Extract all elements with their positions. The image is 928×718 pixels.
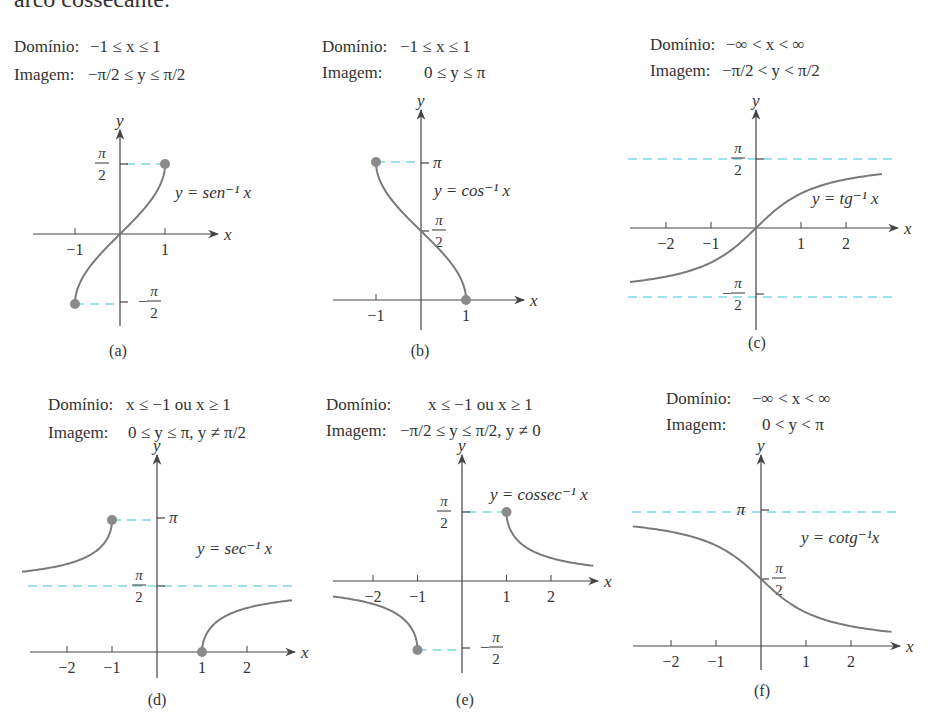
y-tick-label: −π2: [480, 629, 503, 667]
panel-b-plot: xy−11ππ2: [333, 91, 538, 330]
svg-text:π: π: [135, 567, 143, 583]
panel-c-domain-expr: −∞ < x < ∞: [726, 35, 805, 54]
y-tick-label: π2: [95, 145, 109, 183]
panel-a-header: Domínio: −1 ≤ x ≤ 1 Imagem: −π/2 ≤ y ≤ π…: [14, 37, 185, 84]
panel-f-range-expr: 0 < y < π: [762, 415, 824, 434]
panel-b-domain-expr: −1 ≤ x ≤ 1: [400, 37, 471, 56]
panel-f-domain-label: Domínio:: [666, 389, 731, 408]
x-axis-label: x: [905, 637, 914, 656]
panel-e-function-label: y = cossec⁻¹ x: [488, 485, 588, 504]
panel-c-range-expr: −π/2 < y < π/2: [722, 61, 820, 80]
y-tick-label: π2: [437, 493, 451, 531]
function-curve: [333, 596, 418, 650]
x-tick-label: −1: [702, 235, 719, 252]
x-tick-label: −2: [657, 235, 674, 252]
x-tick-label: 2: [847, 653, 855, 670]
x-tick-label: −2: [662, 653, 679, 670]
svg-text:π: π: [433, 153, 442, 172]
x-tick-label: −1: [409, 588, 426, 605]
x-axis-label: x: [300, 643, 309, 662]
x-axis-label: x: [529, 291, 538, 310]
panel-c-range-label: Imagem:: [650, 61, 710, 80]
panel-e-domain-label: Domínio:: [326, 395, 391, 414]
panel-d-header: Domínio: x ≤ −1 ou x ≥ 1 Imagem: 0 ≤ y ≤…: [48, 395, 246, 442]
panel-f-header: Domínio: −∞ < x < ∞ Imagem: 0 < y < π: [666, 389, 831, 434]
x-tick-label: −1: [103, 659, 120, 676]
panel-a-domain-expr: −1 ≤ x ≤ 1: [90, 37, 161, 56]
y-tick-label: π: [737, 500, 746, 519]
panel-e-range-expr: −π/2 ≤ y ≤ π/2, y ≠ 0: [400, 421, 541, 440]
endpoint-dot: [197, 647, 207, 657]
y-tick-label: −π2: [722, 275, 745, 313]
x-tick-label: 1: [161, 241, 169, 258]
endpoint-dot: [413, 645, 423, 655]
svg-text:−: −: [138, 292, 148, 311]
panel-f-range-label: Imagem:: [666, 415, 726, 434]
endpoint-dot: [502, 507, 512, 517]
panel-b-domain-label: Domínio:: [322, 37, 387, 56]
plot-layer: xy−11π2−π2xy−11ππ2xy−2−112π2−π2xy−2−112π…: [22, 91, 914, 678]
svg-text:π: π: [98, 145, 106, 161]
inverse-trig-figure: Domínio: −1 ≤ x ≤ 1 Imagem: −π/2 ≤ y ≤ π…: [0, 0, 928, 718]
panel-a-range-label: Imagem:: [14, 65, 74, 84]
svg-text:π: π: [440, 493, 448, 509]
panel-b-caption: (b): [411, 342, 430, 360]
svg-text:π: π: [734, 140, 742, 156]
x-axis-label: x: [223, 225, 232, 244]
svg-text:2: 2: [150, 305, 158, 321]
panel-d-domain-label: Domínio:: [48, 395, 113, 414]
x-axis-label: x: [903, 219, 912, 238]
svg-text:2: 2: [135, 589, 143, 605]
x-tick-label: −1: [707, 653, 724, 670]
panel-d-caption: (d): [148, 691, 167, 709]
svg-text:2: 2: [734, 297, 742, 313]
panel-c-header: Domínio: −∞ < x < ∞ Imagem: −π/2 < y < π…: [650, 35, 820, 80]
x-tick-label: 2: [547, 588, 555, 605]
endpoint-dot: [160, 159, 170, 169]
svg-text:π: π: [435, 212, 443, 228]
svg-text:π: π: [734, 275, 742, 291]
svg-text:2: 2: [440, 515, 448, 531]
panel-e-header: Domínio: x ≤ −1 ou x ≥ 1 Imagem: −π/2 ≤ …: [326, 395, 541, 440]
endpoint-dot: [70, 299, 80, 309]
panel-a-function-label: y = sen⁻¹ x: [173, 183, 251, 202]
y-tick-label: π: [433, 153, 442, 172]
panel-c-function-label: y = tg⁻¹ x: [810, 189, 879, 208]
x-tick-label: 1: [802, 653, 810, 670]
x-tick-label: 2: [842, 235, 850, 252]
panel-f-domain-expr: −∞ < x < ∞: [752, 389, 831, 408]
endpoint-dot: [107, 515, 117, 525]
endpoint-dot: [461, 295, 471, 305]
svg-text:2: 2: [734, 162, 742, 178]
svg-text:−: −: [722, 284, 732, 303]
svg-text:2: 2: [98, 167, 106, 183]
panel-c-caption: (c): [748, 334, 766, 352]
y-axis-label: y: [755, 436, 765, 455]
panel-f-function-label: y = cotg⁻¹x: [799, 528, 880, 547]
endpoint-dot: [371, 157, 381, 167]
svg-text:−: −: [480, 638, 490, 657]
svg-text:π: π: [169, 508, 178, 527]
svg-text:2: 2: [492, 651, 500, 667]
x-tick-label: 1: [503, 588, 511, 605]
panel-b-range-expr: 0 ≤ y ≤ π: [424, 63, 486, 82]
function-curve: [202, 600, 292, 652]
x-tick-label: 1: [198, 659, 206, 676]
function-curve: [507, 512, 594, 566]
y-axis-label: y: [456, 436, 466, 455]
x-axis-label: x: [603, 572, 612, 591]
y-tick-label: π: [169, 508, 178, 527]
panel-b-header: Domínio: −1 ≤ x ≤ 1 Imagem: 0 ≤ y ≤ π: [322, 37, 486, 82]
panel-a-plot: xy−11π2−π2: [33, 111, 232, 326]
panel-d-range-label: Imagem:: [48, 423, 108, 442]
svg-text:π: π: [150, 283, 158, 299]
function-curve: [22, 520, 112, 572]
panel-a-domain-label: Domínio:: [14, 37, 79, 56]
panel-e-caption: (e): [456, 691, 474, 709]
panel-c-plot: xy−2−112π2−π2: [628, 91, 912, 330]
panel-f-plot: xy−2−112ππ2: [632, 436, 914, 670]
panel-e-domain-expr: x ≤ −1 ou x ≥ 1: [428, 395, 533, 414]
y-axis-label: y: [750, 91, 760, 110]
panel-a-range-expr: −π/2 ≤ y ≤ π/2: [88, 65, 185, 84]
x-tick-label: −1: [66, 241, 83, 258]
